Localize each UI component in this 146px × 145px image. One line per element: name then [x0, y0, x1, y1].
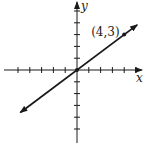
x-axis-label: x — [136, 71, 143, 85]
point-label: (4,3) — [91, 25, 119, 39]
series-line — [20, 25, 137, 113]
coordinate-plane: x y (4,3) — [0, 0, 146, 145]
data-point — [75, 68, 79, 72]
y-axis-label: y — [80, 0, 88, 13]
data-point — [122, 33, 126, 37]
